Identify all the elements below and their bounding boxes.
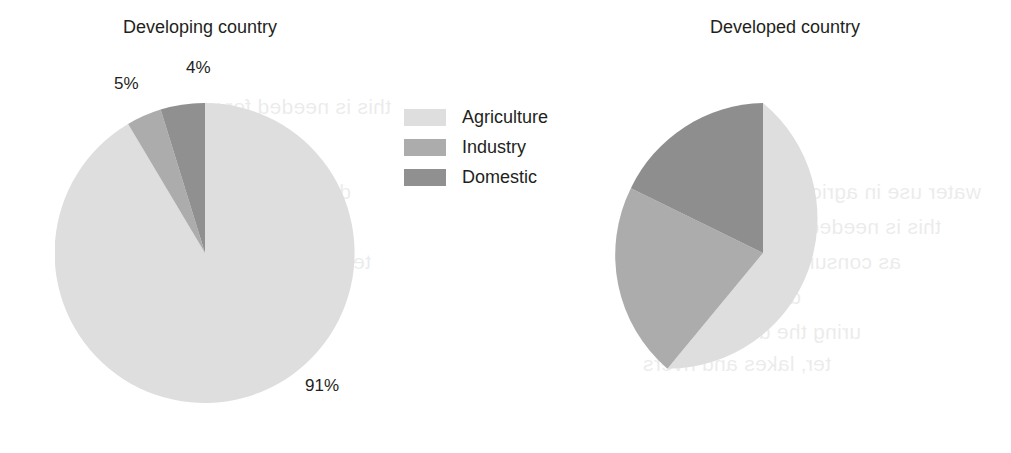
chart-title-developing: Developing country [0, 17, 410, 38]
pie-chart-developing [55, 103, 355, 403]
pie-label-developing-agriculture: 91% [305, 376, 339, 396]
chart-panel-developed: Developed country 14% 39% 47% [565, 0, 985, 453]
pie-svg-developed [613, 103, 913, 403]
pie-svg-developing [55, 103, 355, 403]
legend-item-industry: Industry [404, 132, 548, 162]
legend-swatch-domestic [404, 169, 446, 186]
chart-legend: Agriculture Industry Domestic [404, 102, 548, 192]
legend-swatch-industry [404, 139, 446, 156]
pie-label-developing-domestic: 4% [186, 58, 211, 78]
pie-chart-developed [613, 103, 913, 403]
chart-panel-developing: Developing country 4% 5% 91% [0, 0, 420, 453]
legend-swatch-agriculture [404, 109, 446, 126]
pie-label-developing-industry: 5% [114, 74, 139, 94]
pie-chart-figure: water use in agriculture this is needed … [0, 0, 1011, 453]
chart-title-developed: Developed country [575, 17, 995, 38]
legend-label-domestic: Domestic [462, 167, 537, 188]
legend-item-domestic: Domestic [404, 162, 548, 192]
legend-label-industry: Industry [462, 137, 526, 158]
legend-label-agriculture: Agriculture [462, 107, 548, 128]
legend-item-agriculture: Agriculture [404, 102, 548, 132]
